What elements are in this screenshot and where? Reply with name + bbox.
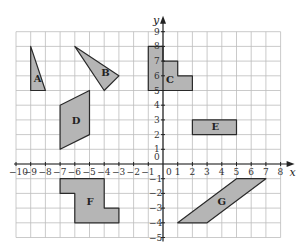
x-tick-label: −5 (83, 167, 97, 177)
y-tick-label: 8 (154, 41, 160, 51)
shape-b: B (75, 46, 119, 90)
shape-label: D (72, 115, 81, 126)
shape-label: E (212, 121, 220, 132)
shape-c: C (148, 46, 192, 90)
x-axis-label: x (290, 166, 297, 179)
shape-label: B (101, 67, 109, 78)
y-tick-label: 9 (154, 27, 160, 37)
shape-label: F (87, 196, 94, 207)
x-tick-label: −3 (112, 167, 126, 177)
y-tick-label: 1 (154, 144, 160, 154)
x-tick-label: −9 (24, 167, 38, 177)
shape-d: D (60, 91, 89, 150)
y-tick-label: 3 (154, 115, 160, 125)
coordinate-grid: ABCDEFG xy−10−9−8−7−6−5−4−3−2−1012345678… (0, 0, 304, 252)
y-axis-arrow-icon (160, 16, 166, 24)
x-tick-label: 5 (234, 167, 240, 177)
x-tick-label: −4 (97, 167, 111, 177)
x-tick-label: 1 (175, 167, 181, 177)
x-tick-label: −8 (38, 167, 52, 177)
shape-a-polygon (31, 46, 46, 90)
y-tick-label: −1 (149, 174, 162, 184)
x-tick-label: 8 (278, 167, 284, 177)
y-tick-label: 4 (154, 100, 160, 110)
x-tick-label: −6 (68, 167, 82, 177)
origin-label: 0 (166, 167, 172, 177)
shape-label: C (166, 74, 174, 85)
y-tick-label: 5 (154, 86, 160, 96)
x-tick-label: 6 (248, 167, 254, 177)
y-tick-label: −4 (149, 218, 163, 228)
y-tick-label: −2 (149, 188, 162, 198)
shape-b-polygon (75, 46, 119, 90)
x-tick-label: 3 (204, 167, 210, 177)
shape-label: G (217, 196, 226, 207)
y-tick-label: 6 (154, 71, 160, 81)
x-tick-label: −7 (53, 167, 67, 177)
shape-a: A (31, 46, 46, 90)
shape-e: E (192, 120, 236, 135)
y-axis-label: y (152, 14, 160, 27)
y-tick-label: 2 (154, 130, 160, 140)
x-tick-label: 7 (263, 167, 269, 177)
y-tick-label: −3 (149, 203, 163, 213)
shape-label: A (33, 73, 42, 84)
x-tick-label: 4 (219, 167, 225, 177)
y-tick-label: −5 (149, 233, 163, 243)
shape-f: F (60, 179, 119, 223)
x-tick-label: 2 (189, 167, 195, 177)
x-tick-label: −2 (127, 167, 140, 177)
y-tick-label: 7 (154, 56, 160, 66)
